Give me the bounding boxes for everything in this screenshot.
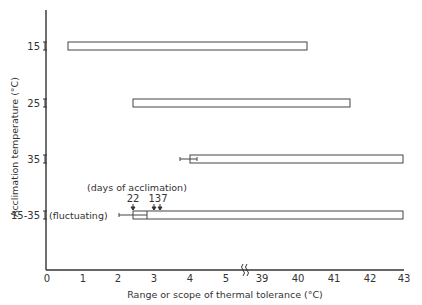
x-tick-2: 2	[115, 273, 121, 284]
x-tick-40: 40	[292, 273, 305, 284]
arrows	[131, 204, 162, 210]
x-tick-1: 1	[80, 273, 86, 284]
x-tick-39: 39	[256, 273, 269, 284]
chart: 15 25 35 15-35 (fluctuating) Acclimation…	[0, 0, 422, 305]
x-tick-42: 42	[364, 273, 377, 284]
day22-label: 22	[127, 193, 140, 204]
bar-15-35	[133, 211, 403, 219]
bar-35	[190, 155, 403, 163]
x-tick-3: 3	[151, 273, 157, 284]
y-label-15: 15	[27, 41, 40, 52]
x-tick-41: 41	[328, 273, 341, 284]
x-tick-5: 5	[223, 273, 229, 284]
x-axis-title: Range or scope of thermal tolerance (°C)	[127, 289, 323, 300]
days-annotation: (days of acclimation)	[87, 182, 187, 193]
y-axis-title: Acclimation temperature (°C)	[9, 77, 20, 217]
bar-25	[133, 99, 350, 107]
bar-15	[68, 42, 307, 50]
y-label-25: 25	[27, 98, 40, 109]
day137-label: 137	[148, 193, 167, 204]
x-tick-4: 4	[187, 273, 193, 284]
x-tick-43: 43	[398, 273, 411, 284]
x-tick-0: 0	[44, 273, 50, 284]
x-tick-labels: 0 1 2 3 4 5 39 40 41 42 43	[44, 273, 411, 284]
y-label-35: 35	[27, 154, 40, 165]
fluctuating-note: (fluctuating)	[49, 210, 108, 221]
